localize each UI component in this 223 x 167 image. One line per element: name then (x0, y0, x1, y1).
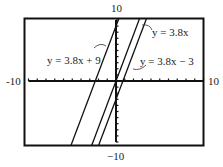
y-max-label: 10 (111, 3, 122, 14)
y-min-label: −10 (107, 151, 124, 162)
line3-label: y = 3.8x − 3 (140, 56, 194, 67)
graphing-window (0, 0, 223, 167)
arrow-line1 (94, 44, 106, 48)
x-min-label: -10 (6, 76, 21, 87)
line2-label: y = 3.8x (152, 27, 188, 38)
line1-label: y = 3.8x + 9 (47, 55, 101, 66)
x-max-label: 10 (208, 76, 219, 87)
